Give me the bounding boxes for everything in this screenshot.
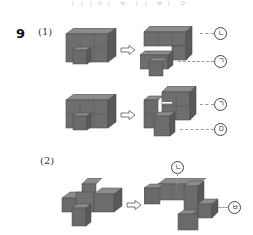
question-number: 9 <box>16 26 25 41</box>
figure-1a-original <box>62 28 118 76</box>
figure-1b-split <box>140 86 204 142</box>
figure-1a-split <box>140 26 204 82</box>
leader-line <box>177 173 178 185</box>
cropped-header-text: ㅣㅣㅣㅇㅣ ㅂ ㅣㅣ ㅂㅣ ㅁ <box>70 0 245 6</box>
label-circle-mieum: ㅁ <box>214 123 227 136</box>
label-circle-giyeok: ㄱ <box>214 98 227 111</box>
figure-2-original <box>60 178 124 234</box>
leader-line <box>178 61 214 62</box>
leader-line <box>200 104 214 105</box>
arrow-right-icon <box>126 200 142 210</box>
part-2-label: (2) <box>40 155 54 166</box>
label-circle-nieun: ㄴ <box>214 27 227 40</box>
leader-line <box>218 207 228 208</box>
leader-line <box>180 129 214 130</box>
arrow-right-icon <box>120 110 136 120</box>
label-circle-bieup: ㅂ <box>228 201 241 214</box>
leader-line <box>200 33 214 34</box>
arrow-right-icon <box>120 45 136 55</box>
part-1-label: (1) <box>38 26 52 37</box>
label-circle-giyeok: ㄱ <box>214 55 227 68</box>
figure-1b-original <box>62 94 118 138</box>
figure-2-split <box>144 178 226 234</box>
